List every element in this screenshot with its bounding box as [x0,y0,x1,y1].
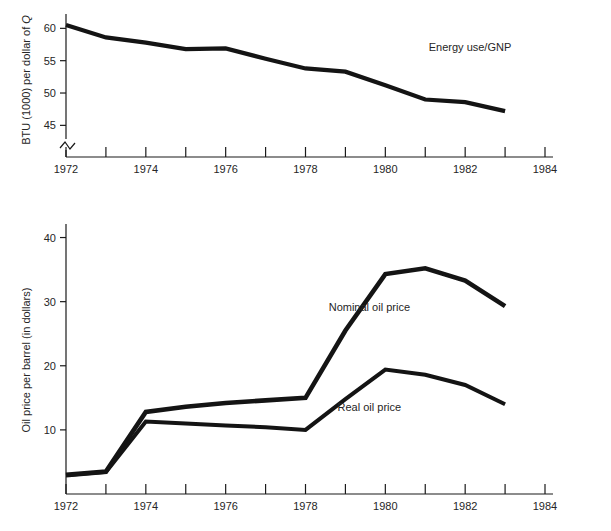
y-axis-title: BTU (1000) per dollar of Q [20,15,32,145]
x-tick-label: 1976 [213,163,237,175]
y-tick-label: 45 [44,119,56,131]
y-axis-title-symbol: Q [20,15,32,24]
x-tick-label: 1982 [453,500,477,512]
annotation-energy-use-gnp: Energy use/GNP [429,41,512,53]
y-tick-label: 50 [44,87,56,99]
x-tick-label: 1984 [533,500,557,512]
y-tick-label: 60 [44,22,56,34]
chart-canvas: 455055601972197419761978198019821984BTU … [0,0,611,531]
chart-background [0,0,611,531]
x-tick-label: 1972 [54,163,78,175]
x-tick-label: 1984 [533,163,557,175]
y-tick-label: 55 [44,55,56,67]
x-tick-label: 1976 [213,500,237,512]
x-tick-label: 1972 [54,500,78,512]
x-tick-label: 1978 [293,500,317,512]
y-tick-label: 20 [44,360,56,372]
two-panel-line-chart-figure: 455055601972197419761978198019821984BTU … [0,0,611,531]
x-tick-label: 1974 [134,500,158,512]
x-tick-label: 1978 [293,163,317,175]
y-axis-title: Oil price per barrel (in dollars) [20,288,32,433]
y-tick-label: 40 [44,232,56,244]
x-tick-label: 1980 [373,500,397,512]
x-tick-label: 1982 [453,163,477,175]
y-tick-label: 30 [44,296,56,308]
annotation-nominal-oil-price: Nominal oil price [329,301,410,313]
x-tick-label: 1974 [134,163,158,175]
annotation-real-oil-price: Real oil price [338,401,402,413]
y-tick-label: 10 [44,424,56,436]
x-tick-label: 1980 [373,163,397,175]
y-axis-title-text: BTU (1000) per dollar of [20,24,32,145]
